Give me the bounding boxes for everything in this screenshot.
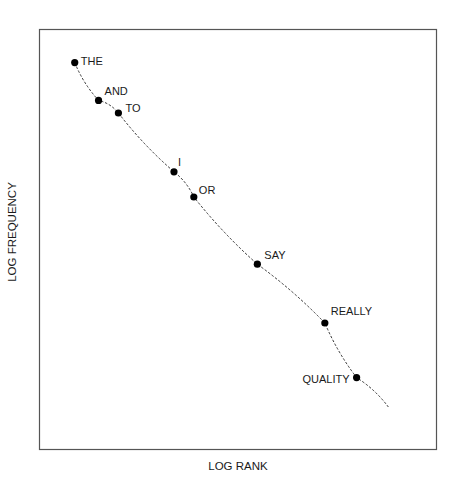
x-axis-label: LOG RANK — [208, 460, 268, 472]
data-point-marker — [254, 261, 261, 268]
data-point-marker — [353, 374, 360, 381]
data-point-marker — [115, 109, 122, 116]
point-label: I — [178, 156, 181, 168]
point-label: SAY — [264, 249, 286, 261]
data-point-marker — [321, 319, 328, 326]
point-label: TO — [125, 102, 141, 114]
data-line — [75, 63, 389, 407]
data-markers — [71, 59, 360, 381]
point-label: THE — [81, 55, 103, 67]
point-labels: THEANDTOIORSAYREALLYQUALITY — [81, 55, 373, 385]
y-axis-label: LOG FREQUENCY — [6, 182, 18, 282]
data-point-marker — [170, 168, 177, 175]
point-label: REALLY — [331, 305, 373, 317]
point-label: QUALITY — [303, 373, 351, 385]
zipf-chart: THEANDTOIORSAYREALLYQUALITY LOG RANK LOG… — [0, 0, 458, 483]
data-point-marker — [190, 193, 197, 200]
point-label: AND — [105, 85, 128, 97]
point-label: OR — [199, 184, 216, 196]
data-point-marker — [95, 97, 102, 104]
data-point-marker — [71, 59, 78, 66]
plot-frame — [40, 30, 437, 450]
